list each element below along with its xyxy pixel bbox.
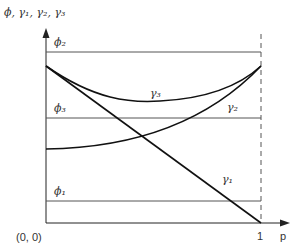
phi1-label: ϕ₁ <box>54 185 66 198</box>
origin-label: (0, 0) <box>16 231 42 243</box>
gamma3-label: γ₃ <box>150 87 161 100</box>
x-axis-label: p <box>280 230 286 242</box>
x-axis-arrow-icon <box>280 220 290 227</box>
phi3-label: ϕ₃ <box>54 102 66 115</box>
phi2-label: ϕ₂ <box>54 36 66 49</box>
y-axis-label: ϕ, γ₁, γ₂, γ₃ <box>4 6 65 19</box>
y-axis-arrow-icon <box>43 28 50 38</box>
gamma1-label: γ₁ <box>222 173 233 186</box>
x-tick-one-label: 1 <box>257 230 263 242</box>
gamma2-label: γ₂ <box>227 101 238 114</box>
diagram: ϕ, γ₁, γ₂, γ₃ ϕ₂ ϕ₃ ϕ₁ γ₃ γ₂ γ₁ (0, 0) 1… <box>0 0 301 251</box>
